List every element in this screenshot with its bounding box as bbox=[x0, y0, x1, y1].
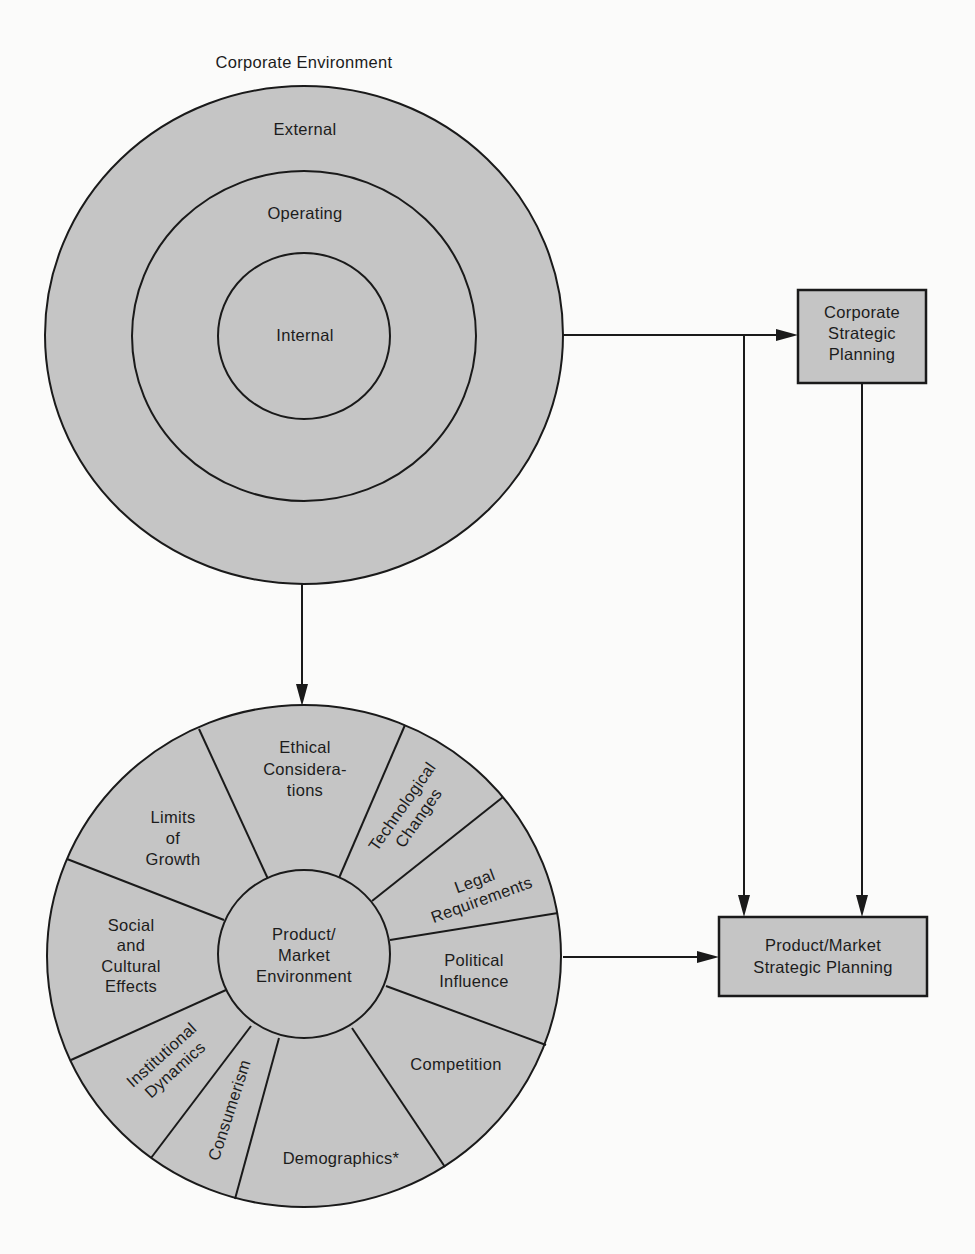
svg-text:Ethical: Ethical bbox=[279, 738, 331, 756]
svg-text:and: and bbox=[117, 936, 145, 954]
arrow-branch-to-product-planning bbox=[738, 335, 750, 917]
svg-text:Limits: Limits bbox=[151, 808, 196, 826]
svg-text:Political: Political bbox=[444, 951, 504, 969]
product-planning-line-1: Product/Market bbox=[765, 936, 881, 954]
arrow-corporate-env-to-corporate-planning bbox=[563, 329, 798, 341]
svg-text:Cultural: Cultural bbox=[101, 957, 160, 975]
corporate-strategic-planning-box: Corporate Strategic Planning bbox=[798, 290, 926, 383]
operating-label: Operating bbox=[267, 204, 342, 222]
segment-competition: Competition bbox=[410, 1055, 501, 1073]
svg-text:Product/: Product/ bbox=[272, 925, 336, 943]
svg-text:Considera-: Considera- bbox=[263, 760, 347, 778]
arrow-product-env-to-product-planning bbox=[563, 951, 719, 963]
corporate-planning-line-1: Corporate bbox=[824, 303, 900, 321]
corporate-planning-line-3: Planning bbox=[829, 345, 896, 363]
external-label: External bbox=[274, 120, 337, 138]
svg-text:Competition: Competition bbox=[410, 1055, 501, 1073]
svg-text:Growth: Growth bbox=[146, 850, 201, 868]
corporate-environment-title: Corporate Environment bbox=[216, 53, 393, 71]
arrow-corporate-to-product-env bbox=[296, 584, 308, 706]
product-market-strategic-planning-box: Product/Market Strategic Planning bbox=[719, 917, 927, 996]
svg-text:of: of bbox=[166, 829, 180, 847]
product-planning-line-2: Strategic Planning bbox=[753, 958, 892, 976]
segment-demographics: Demographics* bbox=[283, 1149, 400, 1167]
svg-text:Influence: Influence bbox=[439, 972, 509, 990]
corporate-planning-line-2: Strategic bbox=[828, 324, 896, 342]
svg-text:Demographics*: Demographics* bbox=[283, 1149, 400, 1167]
svg-text:Market: Market bbox=[278, 946, 330, 964]
arrow-corporate-planning-to-product-planning bbox=[856, 383, 868, 917]
svg-text:Environment: Environment bbox=[256, 967, 352, 985]
svg-text:Social: Social bbox=[108, 916, 155, 934]
svg-text:Effects: Effects bbox=[105, 977, 157, 995]
internal-label: Internal bbox=[276, 326, 333, 344]
svg-text:tions: tions bbox=[287, 781, 323, 799]
diagram-canvas: Corporate Environment External Operating… bbox=[0, 0, 975, 1254]
